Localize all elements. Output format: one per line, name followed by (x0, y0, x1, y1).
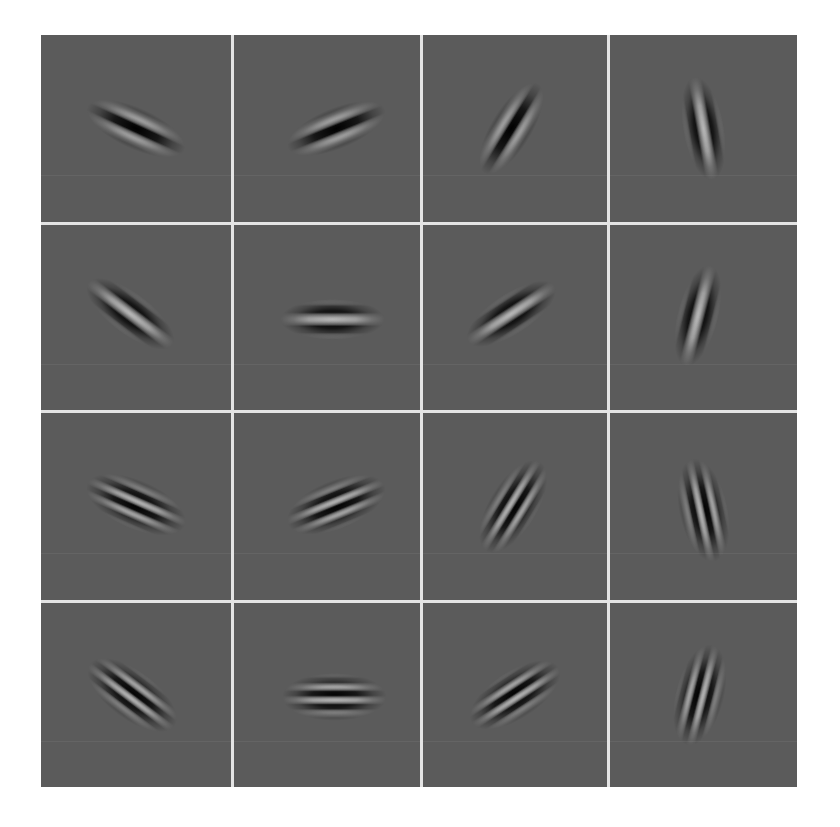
gabor-patch-r1c2 (234, 35, 420, 222)
gabor-kernel-image (41, 413, 231, 600)
gabor-patch-r1c3 (423, 35, 607, 222)
gabor-kernel-image (423, 603, 607, 787)
scan-line-artifact (423, 741, 607, 742)
gabor-kernel-image (41, 35, 231, 222)
scan-line-artifact (234, 364, 420, 365)
gabor-patch-r2c2 (234, 225, 420, 410)
gabor-filter-grid (41, 35, 797, 787)
scan-line-artifact (234, 553, 420, 554)
gabor-kernel-image (423, 35, 607, 222)
gabor-patch-r1c1 (41, 35, 231, 222)
scan-line-artifact (41, 175, 231, 176)
gabor-patch-r3c1 (41, 413, 231, 600)
scan-line-artifact (423, 553, 607, 554)
gabor-patch-r4c3 (423, 603, 607, 787)
gabor-kernel-image (610, 413, 797, 600)
gabor-kernel-image (234, 225, 420, 410)
gabor-patch-r4c4 (610, 603, 797, 787)
gabor-kernel-image (610, 35, 797, 222)
gabor-patch-r1c4 (610, 35, 797, 222)
gabor-patch-r2c1 (41, 225, 231, 410)
scan-line-artifact (610, 175, 797, 176)
scan-line-artifact (41, 364, 231, 365)
gabor-kernel-image (41, 225, 231, 410)
gabor-kernel-image (234, 603, 420, 787)
gabor-kernel-image (234, 35, 420, 222)
gabor-kernel-image (423, 225, 607, 410)
scan-line-artifact (423, 175, 607, 176)
gabor-kernel-image (423, 413, 607, 600)
scan-line-artifact (41, 741, 231, 742)
scan-line-artifact (423, 364, 607, 365)
gabor-kernel-image (610, 603, 797, 787)
gabor-patch-r4c2 (234, 603, 420, 787)
scan-line-artifact (610, 741, 797, 742)
gabor-kernel-image (234, 413, 420, 600)
gabor-patch-r4c1 (41, 603, 231, 787)
gabor-patch-r3c4 (610, 413, 797, 600)
gabor-patch-r3c3 (423, 413, 607, 600)
gabor-patch-r2c4 (610, 225, 797, 410)
scan-line-artifact (41, 553, 231, 554)
scan-line-artifact (234, 175, 420, 176)
scan-line-artifact (234, 741, 420, 742)
gabor-patch-r2c3 (423, 225, 607, 410)
gabor-kernel-image (41, 603, 231, 787)
gabor-kernel-image (610, 225, 797, 410)
scan-line-artifact (610, 364, 797, 365)
gabor-patch-r3c2 (234, 413, 420, 600)
scan-line-artifact (610, 553, 797, 554)
